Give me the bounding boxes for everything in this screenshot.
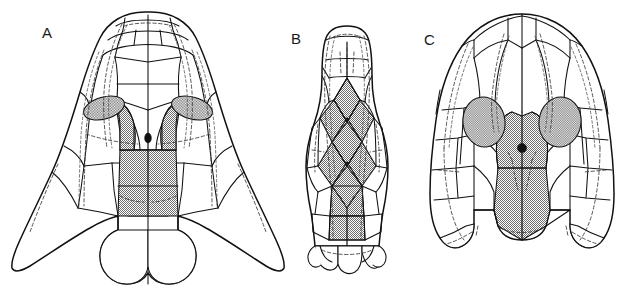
skull-diagram-c [412, 0, 632, 296]
pineal-foramen-a [145, 133, 152, 143]
panel-label-a: A [42, 24, 53, 41]
panel-b: B [282, 0, 412, 296]
figure-container: A [0, 0, 632, 296]
pineal-foramen-c [517, 143, 526, 152]
panel-a: A [0, 0, 282, 296]
panel-label-b: B [291, 30, 302, 47]
panel-label-c: C [424, 31, 435, 48]
skull-diagram-a [0, 0, 282, 296]
panel-c: C [412, 0, 632, 296]
